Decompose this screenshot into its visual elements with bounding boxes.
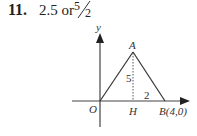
diagram-labels: y A 5 2 O H B(4,0) <box>0 0 197 136</box>
origin-label: O <box>89 103 97 115</box>
point-h-label: H <box>128 105 138 117</box>
hb-length-label: 2 <box>144 89 150 101</box>
height-label: 5 <box>126 72 132 84</box>
point-b-label: B(4,0) <box>159 105 187 118</box>
y-axis-label: y <box>95 21 101 33</box>
point-a-label: A <box>128 39 136 51</box>
